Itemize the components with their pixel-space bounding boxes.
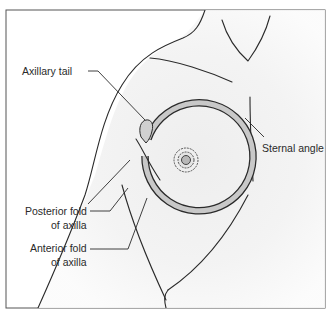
breast-axilla-diagram: Axillary tail Sternal angle Posterior fo… [0,0,330,314]
svg-text:of axilla: of axilla [51,219,87,231]
svg-text:Axillary tail: Axillary tail [22,65,72,77]
nipple-areola [174,148,198,172]
svg-text:Anterior fold: Anterior fold [30,242,87,254]
svg-text:of axilla: of axilla [51,256,87,268]
svg-text:Posterior fold: Posterior fold [25,205,87,217]
svg-text:Sternal angle: Sternal angle [262,142,324,154]
